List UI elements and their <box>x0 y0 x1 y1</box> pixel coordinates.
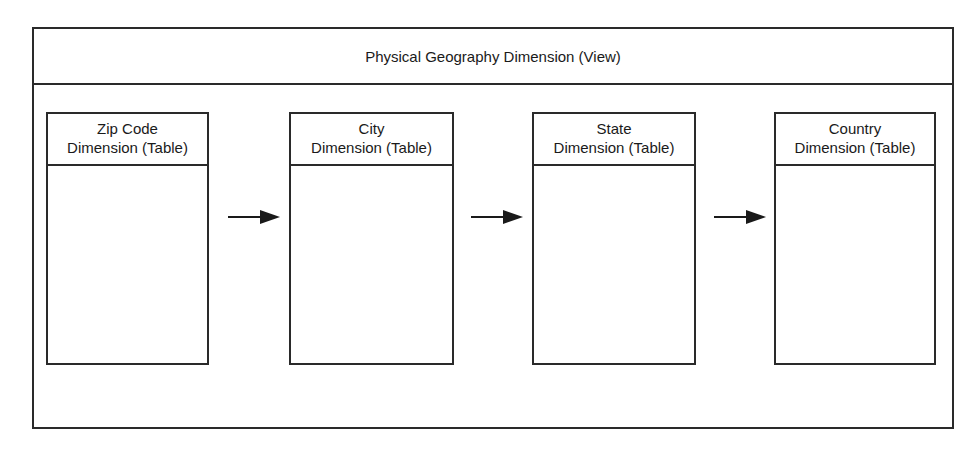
arrow-right-icon <box>228 209 280 225</box>
table-type: Dimension (Table) <box>291 138 452 157</box>
state-table-box: State Dimension (Table) <box>532 112 696 365</box>
view-title: Physical Geography Dimension (View) <box>34 29 952 85</box>
table-name: Zip Code <box>48 119 207 138</box>
country-table-box: Country Dimension (Table) <box>774 112 936 365</box>
table-name: State <box>534 119 694 138</box>
table-name: City <box>291 119 452 138</box>
arrow-right-icon <box>714 209 766 225</box>
table-header: Country Dimension (Table) <box>776 114 934 166</box>
city-table-box: City Dimension (Table) <box>289 112 454 365</box>
table-type: Dimension (Table) <box>534 138 694 157</box>
table-name: Country <box>776 119 934 138</box>
table-header: City Dimension (Table) <box>291 114 452 166</box>
table-type: Dimension (Table) <box>48 138 207 157</box>
table-type: Dimension (Table) <box>776 138 934 157</box>
arrow-right-icon <box>471 209 523 225</box>
table-header: Zip Code Dimension (Table) <box>48 114 207 166</box>
zip-code-table-box: Zip Code Dimension (Table) <box>46 112 209 365</box>
table-header: State Dimension (Table) <box>534 114 694 166</box>
